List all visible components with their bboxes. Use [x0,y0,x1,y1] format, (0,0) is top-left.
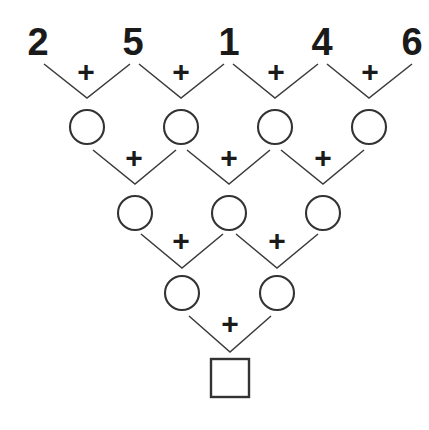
answer-circle-row3-1[interactable] [260,276,294,310]
plus-sign-row2-8: + [268,224,286,257]
answer-circle-row1-0[interactable] [70,110,104,144]
plus-sign-row1-6: + [314,141,332,174]
plus-sign-row0-3: + [361,55,379,88]
plus-sign-row0-0: + [77,55,95,88]
plus-sign-row2-7: + [172,224,190,257]
given-number-0-0: 2 [27,21,48,63]
answer-circle-row3-0[interactable] [165,276,199,310]
plus-sign-row0-2: + [267,55,285,88]
answer-circle-row1-1[interactable] [164,110,198,144]
given-number-0-2: 1 [218,21,239,63]
given-number-0-4: 6 [401,21,422,63]
plus-sign-row1-4: + [125,141,143,174]
answer-square-final[interactable] [211,359,249,397]
given-number-0-1: 5 [122,21,143,63]
answer-circle-row1-2[interactable] [258,110,292,144]
plus-sign-row1-5: + [220,141,238,174]
answer-circle-row2-0[interactable] [118,196,152,230]
answer-circle-row1-3[interactable] [352,110,386,144]
addition-pyramid-canvas: 25146 ++++++++++ [0,0,429,430]
given-number-0-3: 4 [311,21,332,63]
plus-sign-row3-9: + [221,307,239,340]
plus-sign-row0-1: + [172,55,190,88]
answer-circle-row2-1[interactable] [212,196,246,230]
pyramid-diagram: 25146 ++++++++++ [0,0,429,430]
answer-circle-row2-2[interactable] [306,196,340,230]
